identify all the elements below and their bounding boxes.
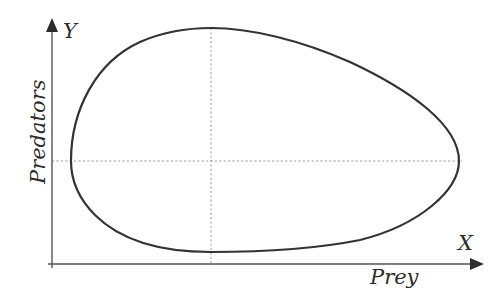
y-axis-arrow-icon: [46, 18, 58, 32]
x-axis-arrow-icon: [470, 258, 484, 270]
population-cycle-curve: [71, 28, 459, 252]
x-axis-letter: X: [456, 231, 474, 255]
y-axis-letter: Y: [63, 19, 79, 43]
x-axis-title: Prey: [369, 265, 420, 289]
y-axis-title: Predators: [26, 79, 50, 185]
predator-prey-diagram: Y X Prey Predators: [0, 0, 503, 304]
